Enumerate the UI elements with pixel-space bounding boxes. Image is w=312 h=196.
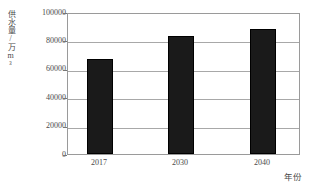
bar-chart: 供水量/万m³ 100000 80000 60000 40000 20000 0… (0, 0, 312, 196)
y-tick-label-80000: 80000 (20, 37, 66, 45)
y-tick-label-100000: 100000 (20, 9, 66, 17)
x-tick-label-2030: 2030 (160, 158, 200, 167)
x-tick-label-2040: 2040 (242, 158, 282, 167)
y-tick-label-20000: 20000 (20, 122, 66, 130)
y-tick-label-60000: 60000 (20, 65, 66, 73)
bar-2017 (87, 59, 113, 154)
y-tick-mark-0 (63, 155, 67, 156)
x-tick-label-2017: 2017 (79, 158, 119, 167)
y-tick-label-0: 0 (20, 151, 66, 159)
plot-area (67, 13, 300, 155)
x-axis-title: 年份 (284, 172, 302, 182)
y-tick-label-40000: 40000 (20, 94, 66, 102)
bar-2030 (168, 36, 194, 154)
bar-2040 (250, 29, 276, 154)
y-axis-title: 供水量/万m³ (2, 10, 15, 90)
